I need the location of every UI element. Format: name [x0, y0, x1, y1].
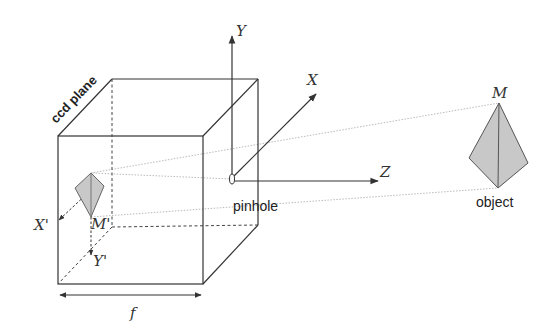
front-face — [58, 136, 203, 284]
image-y-label: Y' — [93, 252, 107, 270]
edge-top-right — [203, 79, 258, 136]
ray-bottom — [91, 188, 498, 217]
pinhole-camera-diagram: ccd plane Y X Z X' Y' M' M pinhole objec… — [0, 0, 556, 330]
axis-z-label: Z — [379, 163, 391, 181]
edge-bottom-right — [203, 225, 258, 284]
object-label: object — [476, 194, 513, 210]
world-axes — [232, 36, 378, 181]
image-point-label: M' — [90, 215, 110, 233]
image-kite — [75, 173, 104, 217]
object-point-label: M — [491, 84, 508, 102]
ray-top — [91, 103, 499, 173]
axis-x-label: X — [306, 71, 319, 89]
light-rays — [91, 103, 499, 217]
object-pyramid — [469, 103, 528, 188]
pinhole-label: pinhole — [233, 198, 278, 214]
x-axis — [232, 94, 316, 178]
pinhole-aperture — [230, 174, 235, 184]
axis-y-label: Y — [236, 22, 248, 40]
focal-length-label: f — [129, 304, 138, 322]
image-x-label: X' — [33, 216, 49, 234]
